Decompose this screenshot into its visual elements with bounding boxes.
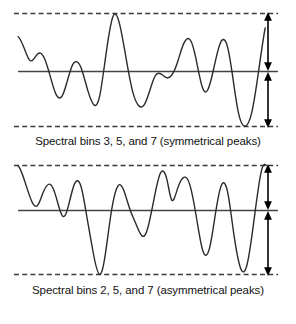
panel-bottom-svg [0,159,296,282]
panel-top: Spectral bins 3, 5, and 7 (symmetrical p… [0,0,296,148]
waveform-curve-symmetrical [18,14,265,126]
negative-excursion-arrow [264,211,272,276]
panel-top-svg [0,0,296,134]
panel-gap-spacer [0,148,296,159]
positive-excursion-arrow [264,164,272,210]
panel-top-caption: Spectral bins 3, 5, and 7 (symmetrical p… [0,134,296,148]
panel-bottom: Spectral bins 2, 5, and 7 (asymmetrical … [0,159,296,297]
panel-bottom-caption: Spectral bins 2, 5, and 7 (asymmetrical … [0,282,296,297]
panel-bottom-plot [0,159,296,282]
negative-excursion-arrow [264,72,272,128]
spectral-bins-figure: Spectral bins 3, 5, and 7 (symmetrical p… [0,0,296,324]
positive-excursion-arrow [264,12,272,71]
waveform-curve-asymmetrical [18,164,266,274]
panel-top-plot [0,0,296,134]
